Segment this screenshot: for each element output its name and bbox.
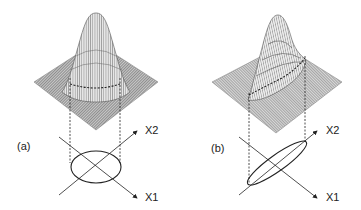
contour-ellipse-a (71, 151, 121, 183)
axis-x2-a (59, 131, 137, 195)
panel-a: (a) X2 X1 (17, 13, 158, 203)
axis-label-x2-b: X2 (326, 124, 339, 136)
axis-label-x1-b: X1 (326, 191, 339, 203)
axis-x1-b (239, 137, 317, 198)
figure-canvas: (a) X2 X1 (b) X2 X1 (0, 0, 361, 210)
panel-label-b: (b) (211, 142, 224, 154)
axis-label-x2-a: X2 (145, 124, 158, 136)
panel-b: (b) X2 X1 (211, 15, 342, 203)
panel-label-a: (a) (17, 140, 30, 152)
axis-label-x1-a: X1 (145, 191, 158, 203)
